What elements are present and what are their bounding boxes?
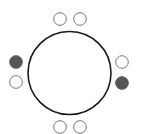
seating-diagram [0,0,143,134]
seating-diagram-svg [0,0,143,134]
seat-right-upper-empty [116,56,129,69]
seat-right-lower-filled [116,77,129,90]
seat-top-right-empty [74,13,87,26]
round-table [28,32,111,115]
seat-bottom-right-empty [74,121,87,134]
seat-bottom-left-empty [54,121,67,134]
seat-left-upper-filled [10,56,23,69]
seat-left-lower-empty [10,76,23,89]
seat-top-left-empty [54,13,67,26]
